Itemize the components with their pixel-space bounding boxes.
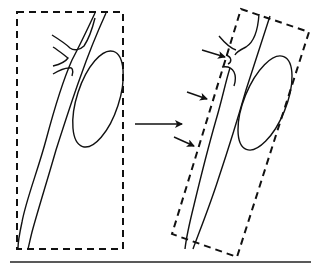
panel-after — [172, 9, 309, 257]
ellipse-structure — [227, 49, 303, 157]
vessel-wall-right — [28, 13, 106, 249]
pointer-arrow-icon-2 — [187, 92, 207, 99]
panel-before — [17, 12, 133, 249]
vessel-branch-middle — [53, 47, 68, 66]
vessel-branch — [219, 36, 236, 50]
rotated-bounding-box-dashed — [172, 9, 309, 257]
vessel-wall-left — [185, 14, 259, 249]
pointer-arrow-icon-3 — [174, 137, 194, 146]
diagram-canvas — [0, 0, 321, 269]
vessel-branch-lower — [53, 68, 73, 76]
pointer-arrow-icon-1 — [202, 50, 225, 57]
vessel-branch-stub — [226, 55, 231, 64]
vessel-wall-left — [18, 13, 95, 248]
vessel-branch-upper — [52, 18, 95, 50]
